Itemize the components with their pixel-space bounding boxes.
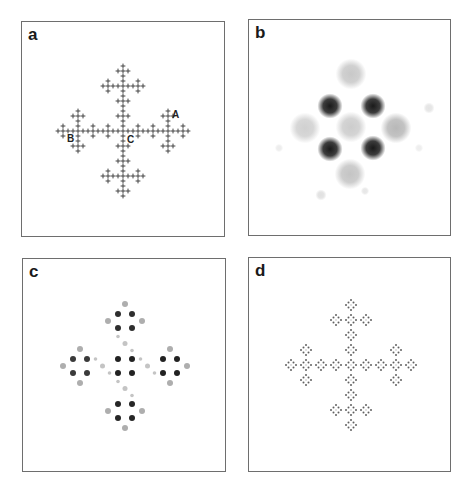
plus-cross-fractal: ABC bbox=[22, 22, 226, 238]
diffraction-blob-pattern bbox=[249, 20, 452, 237]
panel-a: a ABC bbox=[21, 21, 225, 237]
diamond-cross-fractal bbox=[249, 258, 452, 473]
panel-d: d bbox=[248, 257, 451, 472]
dot-cluster-pattern bbox=[23, 259, 227, 473]
point-label-a: A bbox=[172, 109, 179, 120]
panel-b: b bbox=[248, 19, 451, 236]
point-label-b: B bbox=[67, 133, 74, 144]
point-label-c: C bbox=[127, 134, 134, 145]
panel-c: c bbox=[22, 258, 226, 472]
